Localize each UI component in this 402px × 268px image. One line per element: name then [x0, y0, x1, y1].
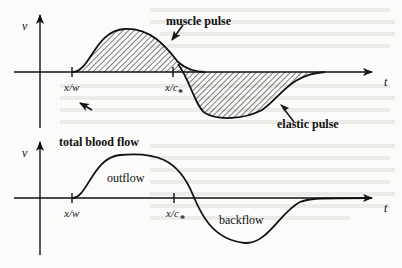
- top-t-axis-label: t: [384, 76, 387, 88]
- bottom-v-axis-label: v: [22, 147, 27, 159]
- bottom-tick-xc-label: x/c: [166, 208, 179, 219]
- top-tick-xw-label: x/w: [64, 82, 79, 93]
- top-v-axis-label: v: [22, 20, 27, 32]
- backflow-label: backflow: [219, 214, 264, 226]
- elastic-pulse-label: elastic pulse: [277, 118, 339, 130]
- bottom-tick-xw-label: x/w: [64, 208, 79, 219]
- top-tick-xc-star: *: [178, 88, 183, 98]
- muscle-pulse-label: muscle pulse: [166, 15, 231, 27]
- elastic-arrow-layer: [0, 0, 402, 268]
- top-tick-xc-label: x/c: [165, 82, 178, 93]
- bottom-t-axis-label: t: [384, 202, 387, 214]
- outflow-label: outflow: [107, 172, 144, 184]
- bottom-tick-xc-star: *: [180, 214, 185, 224]
- total-blood-flow-title: total blood flow: [59, 136, 139, 148]
